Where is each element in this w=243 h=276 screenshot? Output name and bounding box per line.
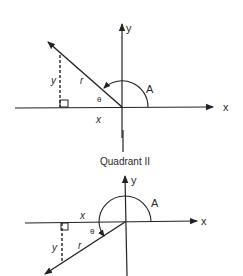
top-angle-a-arc (104, 81, 148, 107)
reference-angle-diagram: y x A r θ y x Quadrant II y x A r θ y x (0, 0, 243, 276)
bottom-theta-label: θ (90, 227, 95, 236)
top-terminal-ray (48, 42, 122, 107)
bottom-terminal-ray (45, 222, 125, 274)
bottom-x-axis (25, 221, 197, 223)
top-theta-label: θ (97, 95, 102, 104)
top-leg-y-label: y (50, 75, 57, 86)
bottom-radius-label: r (78, 240, 82, 251)
caption: Quadrant II (100, 156, 150, 167)
top-leg-x-label: x (95, 114, 102, 125)
top-radius-label: r (80, 75, 84, 86)
bottom-y-axis (125, 176, 127, 276)
bottom-angle-a-label: A (151, 197, 159, 209)
top-x-axis (15, 107, 213, 108)
bottom-leg-y-label: y (51, 242, 58, 253)
top-angle-a-label: A (146, 83, 154, 95)
bottom-x-axis-label: x (201, 215, 207, 227)
bottom-y-axis-label: y (131, 174, 137, 186)
top-diagram: y x A r θ y x (15, 22, 229, 138)
top-y-axis-label: y (126, 22, 132, 34)
top-right-angle-marker (60, 100, 68, 107)
bottom-diagram: y x A r θ y x (25, 174, 207, 276)
bottom-leg-x-label: x (79, 210, 86, 221)
top-x-axis-label: x (223, 101, 229, 113)
